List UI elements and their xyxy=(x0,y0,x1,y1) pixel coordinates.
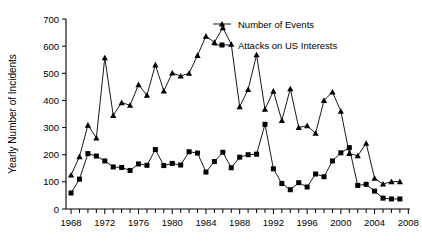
data-point-marker xyxy=(111,164,116,169)
y-axis-tick-label: 400 xyxy=(43,95,59,106)
data-point-marker xyxy=(102,158,107,163)
data-point-marker xyxy=(246,152,251,157)
y-axis-tick-label: 300 xyxy=(43,122,59,133)
chart-background xyxy=(0,0,422,248)
data-point-marker xyxy=(279,181,284,186)
legend-label: Number of Events xyxy=(238,19,314,30)
x-axis-tick-label: 1972 xyxy=(94,217,115,228)
data-point-marker xyxy=(119,165,124,170)
data-point-marker xyxy=(330,158,335,163)
data-point-marker xyxy=(229,165,234,170)
legend-label: Attacks on US Interests xyxy=(238,40,338,51)
data-point-marker xyxy=(364,182,369,187)
data-point-marker xyxy=(136,161,141,166)
data-point-marker xyxy=(187,149,192,154)
data-point-marker xyxy=(338,150,343,155)
data-point-marker xyxy=(77,177,82,182)
data-point-marker xyxy=(212,159,217,164)
data-point-marker xyxy=(355,183,360,188)
x-axis-tick-label: 1996 xyxy=(297,217,318,228)
data-point-marker xyxy=(296,180,301,185)
data-point-marker xyxy=(195,151,200,156)
x-axis-tick-label: 1992 xyxy=(263,217,284,228)
data-point-marker xyxy=(203,170,208,175)
data-point-marker xyxy=(178,163,183,168)
data-point-marker xyxy=(94,154,99,159)
data-point-marker xyxy=(262,122,267,127)
x-axis-tick-label: 2008 xyxy=(398,217,419,228)
data-point-marker xyxy=(170,161,175,166)
data-point-marker xyxy=(144,163,149,168)
x-axis-tick-label: 1968 xyxy=(60,217,81,228)
data-point-marker xyxy=(313,171,318,176)
x-axis-tick-label: 1984 xyxy=(195,217,216,228)
data-point-marker xyxy=(347,145,352,150)
chart-container: 0100200300400500600700 19681972197619801… xyxy=(0,0,422,248)
legend-square-marker xyxy=(220,43,225,48)
y-axis-tick-label: 600 xyxy=(43,41,59,52)
data-point-marker xyxy=(85,151,90,156)
y-axis-title: Yearly Number of Incidents xyxy=(7,54,18,174)
data-point-marker xyxy=(305,185,310,190)
x-axis-tick-label: 1988 xyxy=(229,217,250,228)
data-point-marker xyxy=(372,189,377,194)
data-point-marker xyxy=(69,190,74,195)
data-point-marker xyxy=(161,163,166,168)
data-point-marker xyxy=(237,155,242,160)
y-axis-title-label: Yearly Number of Incidents xyxy=(7,54,18,174)
y-axis-tick-label: 500 xyxy=(43,68,59,79)
data-point-marker xyxy=(288,187,293,192)
x-axis-tick-label: 1976 xyxy=(128,217,149,228)
data-point-marker xyxy=(397,196,402,201)
data-point-marker xyxy=(220,150,225,155)
data-point-marker xyxy=(322,174,327,179)
y-axis-tick-label: 200 xyxy=(43,149,59,160)
data-point-marker xyxy=(254,152,259,157)
data-point-marker xyxy=(381,196,386,201)
y-axis-tick-label: 0 xyxy=(54,204,59,215)
data-point-marker xyxy=(128,168,133,173)
data-point-marker xyxy=(153,147,158,152)
data-point-marker xyxy=(271,166,276,171)
y-axis-tick-label: 100 xyxy=(43,176,59,187)
x-axis-tick-label: 2000 xyxy=(330,217,351,228)
data-point-marker xyxy=(389,196,394,201)
x-axis-tick-label: 2004 xyxy=(364,217,385,228)
y-axis-tick-label: 700 xyxy=(43,14,59,25)
x-axis-tick-label: 1980 xyxy=(162,217,183,228)
incidents-line-chart: 0100200300400500600700 19681972197619801… xyxy=(0,0,422,248)
